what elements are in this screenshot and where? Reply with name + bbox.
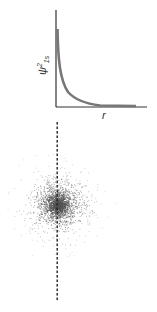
electron-density-cloud [0,120,157,312]
dash [57,262,58,265]
dash [57,167,58,170]
dash [57,271,58,274]
dash [57,199,58,202]
dash [57,131,58,134]
dash [57,244,58,247]
dash [57,248,58,251]
dash [57,275,58,278]
dash [57,181,58,184]
dash [57,226,58,229]
dash [57,154,58,157]
dash [57,298,58,301]
dash [57,172,58,175]
density-curve [58,29,137,106]
dash [57,208,58,211]
dash [57,266,58,269]
dash [57,145,58,148]
dash [57,136,58,139]
dash [57,257,58,260]
dash [57,190,58,193]
dash [57,122,58,125]
dash [57,235,58,238]
dash [57,163,58,166]
dash [57,280,58,283]
dash [57,230,58,233]
dash [57,212,58,215]
dash [57,149,58,152]
y-axis-label: ψ21s [36,50,51,80]
dash [57,253,58,256]
dash [57,158,58,161]
dash [57,239,58,242]
dash [57,217,58,220]
dash [57,185,58,188]
radial-probability-plot [0,0,157,120]
dash [57,127,58,130]
dash [57,176,58,179]
dash [57,221,58,224]
dash [57,289,58,292]
dash [57,194,58,197]
dash [57,293,58,296]
dash [57,284,58,287]
dash [57,203,58,206]
dash [57,140,58,143]
